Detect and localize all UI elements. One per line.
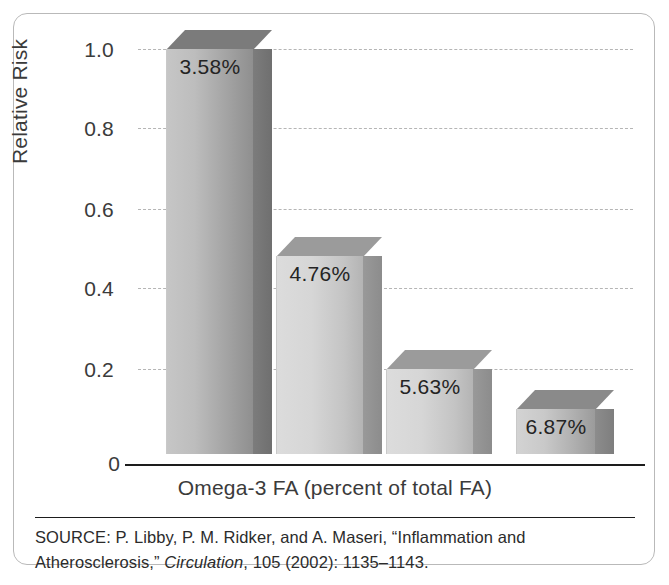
bar-5.63: 5.63% bbox=[386, 369, 472, 454]
ytick-0: 0 bbox=[96, 452, 120, 476]
ytick-0.6: 0.6 bbox=[52, 199, 114, 220]
source-note: SOURCE: P. Libby, P. M. Ridker, and A. M… bbox=[35, 525, 641, 575]
bar-side-face bbox=[252, 49, 272, 454]
bar-value-label: 5.63% bbox=[387, 375, 473, 399]
bar-top-face bbox=[386, 350, 492, 370]
ytick-0.4: 0.4 bbox=[52, 278, 114, 299]
bar-front-face: 4.76% bbox=[276, 256, 363, 454]
plot-area: 3.58% 4.76% 5.63% 6.87% bbox=[138, 36, 633, 454]
source-divider bbox=[35, 517, 635, 518]
bar-top-face bbox=[516, 390, 614, 410]
bar-value-label: 4.76% bbox=[277, 262, 363, 286]
bar-side-face bbox=[594, 409, 614, 454]
bar-side-face bbox=[472, 369, 492, 454]
bar-value-label: 3.58% bbox=[167, 55, 253, 79]
source-journal-name: Circulation bbox=[164, 553, 243, 571]
bar-front-face: 5.63% bbox=[386, 369, 473, 454]
ytick-1.0: 1.0 bbox=[52, 39, 114, 60]
source-text-part2: , 105 (2002): 1135–1143. bbox=[243, 553, 428, 571]
x-axis-label: Omega-3 FA (percent of total FA) bbox=[14, 476, 656, 500]
figure-panel: 3.58% 4.76% 5.63% 6.87% 1.0 0.8 0. bbox=[13, 13, 655, 565]
x-axis-line bbox=[125, 464, 645, 466]
bar-side-face bbox=[362, 256, 382, 454]
bar-top-face bbox=[276, 237, 382, 257]
bar-4.76: 4.76% bbox=[276, 256, 362, 454]
bar-3.58: 3.58% bbox=[166, 49, 252, 454]
y-axis-label: Relative Risk bbox=[8, 39, 32, 164]
bar-6.87: 6.87% bbox=[516, 409, 594, 454]
bar-front-face: 6.87% bbox=[516, 409, 595, 454]
ytick-0.2: 0.2 bbox=[52, 359, 114, 380]
bar-front-face: 3.58% bbox=[166, 49, 253, 454]
ytick-0.8: 0.8 bbox=[52, 118, 114, 139]
bar-top-face bbox=[166, 30, 272, 50]
bar-value-label: 6.87% bbox=[517, 415, 595, 439]
